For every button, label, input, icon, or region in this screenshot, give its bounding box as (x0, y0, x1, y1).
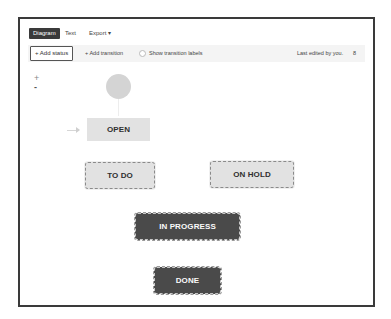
tab-diagram[interactable]: Diagram (29, 28, 60, 39)
status-todo-label: TO DO (107, 171, 133, 180)
status-in-progress-label: IN PROGRESS (159, 222, 216, 231)
start-connector-line (118, 99, 119, 116)
status-open-label: OPEN (107, 125, 130, 134)
show-transition-labels-radio[interactable] (139, 50, 146, 57)
add-status-button[interactable]: + Add status (30, 46, 73, 61)
status-todo[interactable]: TO DO (85, 162, 155, 189)
status-open[interactable]: OPEN (87, 118, 150, 141)
status-on-hold-label: ON HOLD (233, 170, 271, 179)
status-in-progress[interactable]: IN PROGRESS (135, 213, 240, 240)
toolbar: + Add status + Add transition Show trans… (28, 45, 365, 62)
collaborators-icon[interactable]: 8 (353, 47, 356, 60)
last-edited-text: Last edited by you. (297, 47, 343, 60)
export-dropdown[interactable]: Export ▾ (85, 28, 115, 39)
status-done[interactable]: DONE (154, 267, 221, 294)
show-transition-labels-label: Show transition labels (149, 50, 203, 56)
workflow-editor-window: Diagram Text Export ▾ + Add status + Add… (18, 17, 375, 307)
global-transition-arrow-icon (76, 127, 80, 133)
zoom-out-button[interactable]: - (34, 83, 37, 92)
start-node-circle[interactable] (106, 74, 131, 99)
add-transition-button[interactable]: + Add transition (85, 47, 123, 60)
status-done-label: DONE (176, 276, 200, 285)
show-transition-labels-toggle[interactable]: Show transition labels (139, 47, 203, 60)
status-on-hold[interactable]: ON HOLD (210, 161, 294, 188)
tab-text[interactable]: Text (61, 28, 80, 39)
